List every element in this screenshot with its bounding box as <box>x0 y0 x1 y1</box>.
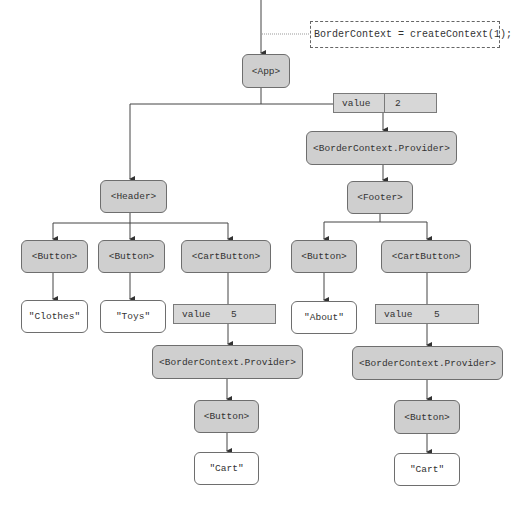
node-text-cart-left: "Cart" <box>194 452 259 485</box>
value-key: value <box>334 94 385 112</box>
node-label: "Cart" <box>209 463 243 474</box>
node-label: <CartButton> <box>392 251 460 262</box>
node-provider-left[interactable]: <BorderContext.Provider> <box>152 345 303 379</box>
node-header-button-2[interactable]: <Button> <box>98 240 165 273</box>
value-box-left: value 5 <box>173 304 276 324</box>
value-box-right: value 5 <box>375 304 479 324</box>
node-app[interactable]: <App> <box>242 54 290 88</box>
annotation-text: BorderContext = createContext(1); <box>314 29 512 40</box>
node-cart-button-right[interactable]: <Button> <box>394 400 460 434</box>
node-header-cartbutton[interactable]: <CartButton> <box>181 240 271 273</box>
node-provider-right[interactable]: <BorderContext.Provider> <box>352 346 503 380</box>
node-label: <BorderContext.Provider> <box>359 358 496 369</box>
value-box-top: value 2 <box>333 93 437 113</box>
value-key: value <box>174 305 227 323</box>
node-label: <Button> <box>301 251 347 262</box>
create-context-annotation: BorderContext = createContext(1); <box>310 21 500 48</box>
node-header[interactable]: <Header> <box>100 180 167 213</box>
node-label: <Header> <box>111 191 157 202</box>
node-label: <Button> <box>109 251 155 262</box>
node-text-clothes: "Clothes" <box>21 300 88 333</box>
node-label: <BorderContext.Provider> <box>313 143 450 154</box>
node-label: "Toys" <box>116 311 150 322</box>
value-val: 2 <box>385 94 436 112</box>
node-label: "Cart" <box>410 464 444 475</box>
node-text-toys: "Toys" <box>100 300 166 333</box>
node-label: <Button> <box>404 412 450 423</box>
node-label: <Button> <box>32 251 78 262</box>
node-label: "Clothes" <box>29 311 80 322</box>
node-text-cart-right: "Cart" <box>394 453 460 486</box>
node-label: <CartButton> <box>192 251 260 262</box>
value-key: value <box>376 305 428 323</box>
component-tree-diagram: BorderContext = createContext(1); <App> … <box>0 0 523 509</box>
node-label: <Button> <box>204 411 250 422</box>
node-header-button-1[interactable]: <Button> <box>21 240 88 273</box>
node-label: "About" <box>304 312 344 323</box>
node-footer[interactable]: <Footer> <box>347 181 413 214</box>
node-provider-top[interactable]: <BorderContext.Provider> <box>306 131 457 165</box>
value-val: 5 <box>227 305 275 323</box>
node-label: <App> <box>252 66 281 77</box>
node-label: <BorderContext.Provider> <box>159 357 296 368</box>
node-cart-button-left[interactable]: <Button> <box>194 400 259 433</box>
node-label: <Footer> <box>357 192 403 203</box>
node-footer-button[interactable]: <Button> <box>291 240 357 273</box>
value-val: 5 <box>428 305 478 323</box>
node-text-about: "About" <box>291 301 357 334</box>
node-footer-cartbutton[interactable]: <CartButton> <box>381 240 471 273</box>
